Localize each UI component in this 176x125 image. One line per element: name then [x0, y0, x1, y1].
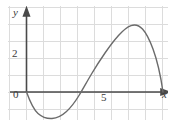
x-tick-label-5: 5 — [101, 92, 107, 103]
plot-area — [8, 6, 168, 120]
y-tick-label-2: 2 — [12, 48, 18, 59]
origin-label: 0 — [13, 89, 19, 100]
curve — [8, 6, 168, 120]
x-axis-label: x — [162, 89, 167, 100]
function-curve — [27, 25, 164, 119]
y-axis-label: y — [13, 7, 18, 18]
graph-figure: y x 0 2 5 — [0, 0, 176, 125]
